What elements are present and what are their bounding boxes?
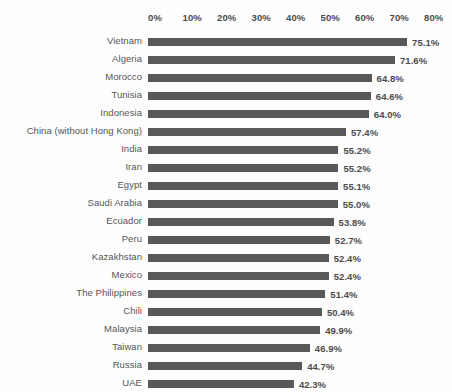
- bar-value-label: 46.9%: [315, 343, 342, 355]
- bar: [148, 146, 338, 154]
- x-axis-tick-labels: 0%10%20%30%40%50%60%70%80%: [0, 11, 452, 25]
- bar-row: Egypt55.1%: [0, 178, 452, 196]
- bar-track: [148, 362, 302, 370]
- x-axis-tick: 10%: [183, 11, 202, 25]
- bar-value-label: 55.2%: [343, 145, 370, 157]
- bar-value-label: 55.1%: [343, 181, 370, 193]
- bar-track: [148, 344, 310, 352]
- bar-track: [148, 254, 329, 262]
- bar-row: China (without Hong Kong)57.4%: [0, 124, 452, 142]
- bar-row: India55.2%: [0, 142, 452, 160]
- bar: [148, 254, 329, 262]
- bar-row: UAE42.3%: [0, 376, 452, 392]
- bar-row: Taiwan46.9%: [0, 340, 452, 358]
- bar-row: Malaysia49.9%: [0, 322, 452, 340]
- bar-value-label: 49.9%: [325, 325, 352, 337]
- bar-value-label: 64.8%: [377, 73, 404, 85]
- bar-track: [148, 272, 329, 280]
- bar-track: [148, 128, 346, 136]
- bar-row: Morocco64.8%: [0, 70, 452, 88]
- bar: [148, 74, 372, 82]
- bar-track: [148, 92, 371, 100]
- bar-row: Vietnam75.1%: [0, 34, 452, 52]
- bar-category-label: Peru: [0, 232, 142, 245]
- bar-value-label: 64.6%: [376, 91, 403, 103]
- x-axis-tick: 40%: [286, 11, 305, 25]
- bar-value-label: 55.0%: [343, 199, 370, 211]
- bar-track: [148, 146, 338, 154]
- bar-track: [148, 308, 322, 316]
- bar-row: Saudi Arabia55.0%: [0, 196, 452, 214]
- bar-row: Kazakhstan52.4%: [0, 250, 452, 268]
- bar: [148, 344, 310, 352]
- bar-value-label: 57.4%: [351, 127, 378, 139]
- bar-row: Mexico52.4%: [0, 268, 452, 286]
- x-axis-tick: 0%: [148, 11, 162, 25]
- bar: [148, 326, 320, 334]
- bar-track: [148, 236, 330, 244]
- bar-row: The Philippines51.4%: [0, 286, 452, 304]
- bar-category-label: Indonesia: [0, 106, 142, 119]
- bar: [148, 236, 330, 244]
- bar-track: [148, 74, 372, 82]
- bar-category-label: Mexico: [0, 268, 142, 281]
- bar-track: [148, 110, 369, 118]
- bar-value-label: 42.3%: [299, 379, 326, 391]
- bar: [148, 218, 334, 226]
- bar: [148, 290, 325, 298]
- x-axis-tick: 50%: [321, 11, 340, 25]
- bar: [148, 164, 338, 172]
- bar-row: Ecuador53.8%: [0, 214, 452, 232]
- bar-category-label: Morocco: [0, 70, 142, 83]
- bar: [148, 182, 338, 190]
- bar-category-label: Chili: [0, 304, 142, 317]
- x-axis-tick: 30%: [252, 11, 271, 25]
- bar: [148, 92, 371, 100]
- bar-value-label: 52.4%: [334, 253, 361, 265]
- bar: [148, 56, 395, 64]
- bar-value-label: 55.2%: [343, 163, 370, 175]
- bar-category-label: India: [0, 142, 142, 155]
- bar: [148, 128, 346, 136]
- x-axis-tick: 80%: [424, 11, 443, 25]
- bar-value-label: 51.4%: [330, 289, 357, 301]
- bar-track: [148, 290, 325, 298]
- bar-track: [148, 164, 338, 172]
- bar-category-label: UAE: [0, 376, 142, 389]
- bar-category-label: Egypt: [0, 178, 142, 191]
- bar-row: Algeria71.6%: [0, 52, 452, 70]
- bar-track: [148, 218, 334, 226]
- bar: [148, 380, 294, 388]
- bar-row: Tunisia64.6%: [0, 88, 452, 106]
- bar-category-label: Tunisia: [0, 88, 142, 101]
- bar-track: [148, 56, 395, 64]
- bar-value-label: 44.7%: [307, 361, 334, 373]
- bar-category-label: Russia: [0, 358, 142, 371]
- bar-track: [148, 380, 294, 388]
- bar-category-label: Malaysia: [0, 322, 142, 335]
- bar-value-label: 52.7%: [335, 235, 362, 247]
- bar-category-label: Algeria: [0, 52, 142, 65]
- bar: [148, 110, 369, 118]
- bar-category-label: The Philippines: [0, 286, 142, 299]
- bar-category-label: Kazakhstan: [0, 250, 142, 263]
- bar: [148, 38, 407, 46]
- bar-rows: Vietnam75.1%Algeria71.6%Morocco64.8%Tuni…: [0, 34, 452, 392]
- bar-category-label: Taiwan: [0, 340, 142, 353]
- bar-row: Russia44.7%: [0, 358, 452, 376]
- x-axis-tick: 20%: [217, 11, 236, 25]
- bar-value-label: 52.4%: [334, 271, 361, 283]
- bar-row: Indonesia64.0%: [0, 106, 452, 124]
- bar-track: [148, 38, 407, 46]
- bar-row: Iran55.2%: [0, 160, 452, 178]
- bar-value-label: 71.6%: [400, 55, 427, 67]
- bar-value-label: 75.1%: [412, 37, 439, 49]
- bar-row: Chili50.4%: [0, 304, 452, 322]
- bar-category-label: China (without Hong Kong): [0, 124, 142, 137]
- x-axis-tick: 60%: [355, 11, 374, 25]
- bar: [148, 272, 329, 280]
- x-axis-tick: 70%: [390, 11, 409, 25]
- bar: [148, 308, 322, 316]
- bar-category-label: Vietnam: [0, 34, 142, 47]
